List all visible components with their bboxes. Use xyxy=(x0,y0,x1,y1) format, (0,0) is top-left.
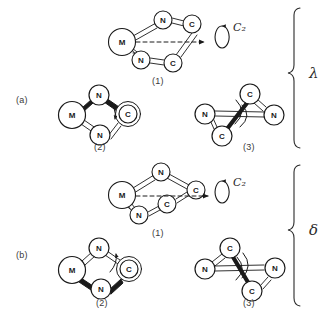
structure-label-b2: (2) xyxy=(96,298,108,308)
atom-label-C: C xyxy=(249,287,255,296)
atom-label-C: C xyxy=(125,110,131,119)
c2-rotation-arrow-a xyxy=(215,26,229,48)
atom-label-M: M xyxy=(69,266,76,275)
chemical-structure-figure: M N C C N M N N C C N N C M N C C N M N … xyxy=(0,0,334,318)
atom-label-C: C xyxy=(170,59,176,68)
c2-rotation-arrow-b xyxy=(215,181,229,203)
atom-label-N: N xyxy=(158,168,164,177)
structure-a1 xyxy=(109,11,230,72)
atom-label-N: N xyxy=(97,131,103,140)
brace-delta xyxy=(288,165,300,306)
atom-label-N: N xyxy=(202,265,208,274)
atom-label-C: C xyxy=(193,186,199,195)
atom-label-M: M xyxy=(69,111,76,120)
atom-label-N: N xyxy=(96,91,102,100)
atom-label-M: M xyxy=(119,191,126,200)
atom-label-N: N xyxy=(202,110,208,119)
atom-label-M: M xyxy=(119,38,126,47)
atom-label-N: N xyxy=(136,211,142,220)
atom-label-N: N xyxy=(272,264,278,273)
atom-label-N: N xyxy=(160,16,166,25)
brace-lambda xyxy=(288,8,300,148)
panel-label-a: (a) xyxy=(16,95,28,105)
atom-label-C: C xyxy=(227,244,233,253)
structure-label-a1: (1) xyxy=(152,76,164,86)
atom-label-C: C xyxy=(189,20,195,29)
atom-label-C: C xyxy=(164,200,170,209)
structure-label-b1: (1) xyxy=(152,228,164,238)
structure-label-b3: (3) xyxy=(243,298,255,308)
c2-axis-label-a: C₂ xyxy=(233,21,246,34)
atom-label-N: N xyxy=(96,244,102,253)
structure-label-a2: (2) xyxy=(94,142,106,152)
atom-label-N: N xyxy=(98,285,104,294)
chirality-label-lambda: λ xyxy=(309,64,319,82)
atom-label-C: C xyxy=(219,132,225,141)
atom-label-N: N xyxy=(271,111,277,120)
structure-label-a3: (3) xyxy=(243,142,255,152)
c2-axis-label-b: C₂ xyxy=(233,176,246,189)
atom-label-N: N xyxy=(138,56,144,65)
chirality-label-delta: δ xyxy=(309,221,318,239)
atom-label-C: C xyxy=(247,90,253,99)
atom-label-C: C xyxy=(126,265,132,274)
panel-label-b: (b) xyxy=(16,250,28,260)
figure-canvas: M N C C N M N N C C N N C M N C C N M N … xyxy=(0,0,334,318)
